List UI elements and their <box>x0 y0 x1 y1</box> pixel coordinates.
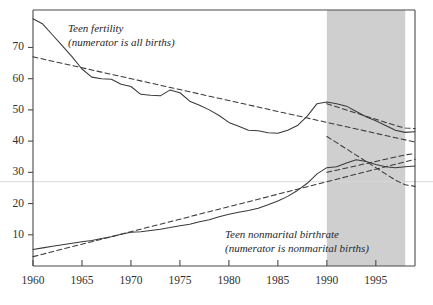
y-axis-tick-label: 30 <box>0 165 24 177</box>
teen-fertility-annotation-line1: Teen fertility <box>68 22 175 36</box>
teen-nonmarital-annotation-line2: (numerator is nonmarital births) <box>225 242 369 256</box>
y-axis-tick-label: 70 <box>0 40 24 52</box>
x-axis-tick-label: 1965 <box>65 274 99 286</box>
teen-nonmarital-annotation: Teen nonmarital birthrate(numerator is n… <box>225 228 369 255</box>
x-axis-tick-label: 1985 <box>261 274 295 286</box>
chart-figure: 7060504030201019601965197019751980198519… <box>0 0 433 305</box>
y-axis-tick-label: 40 <box>0 134 24 146</box>
x-axis-tick-label: 1995 <box>359 274 393 286</box>
x-axis-tick-label: 1970 <box>114 274 148 286</box>
x-axis-tick-label: 1975 <box>163 274 197 286</box>
x-axis-tick-label: 1990 <box>310 274 344 286</box>
teen-fertility-annotation-line2: (numerator is all births) <box>68 36 175 50</box>
teen-fertility-annotation: Teen fertility(numerator is all births) <box>68 22 175 49</box>
teen-nonmarital-annotation-line1: Teen nonmarital birthrate <box>225 228 369 242</box>
y-axis-tick-label: 50 <box>0 103 24 115</box>
y-axis-tick-label: 60 <box>0 72 24 84</box>
x-axis-tick-label: 1960 <box>16 274 50 286</box>
y-axis-tick-label: 10 <box>0 228 24 240</box>
y-axis-tick-label: 20 <box>0 197 24 209</box>
x-axis-tick-label: 1980 <box>212 274 246 286</box>
chart-svg <box>0 0 433 305</box>
